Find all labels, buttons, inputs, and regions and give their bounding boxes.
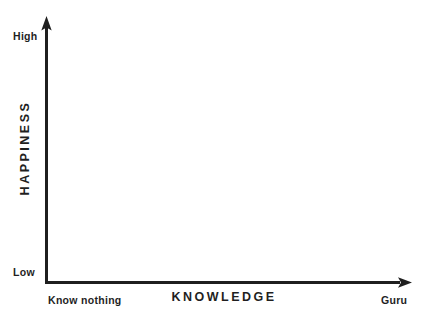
- chart-axes: [0, 0, 424, 315]
- y-axis-min-label: Low: [13, 267, 35, 278]
- x-axis-max-label: Guru: [381, 295, 407, 306]
- y-axis-max-label: High: [13, 31, 38, 42]
- x-axis-title: KNOWLEDGE: [171, 291, 276, 304]
- x-axis-min-label: Know nothing: [48, 295, 122, 306]
- x-axis-arrowhead-icon: [398, 277, 412, 288]
- happiness-knowledge-chart: High Low HAPPINESS Know nothing KNOWLEDG…: [0, 0, 424, 315]
- y-axis-title: HAPPINESS: [19, 101, 32, 196]
